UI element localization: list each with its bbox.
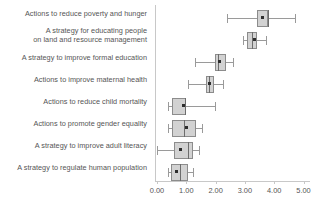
mean-marker <box>175 170 178 173</box>
upper-whisker-cap <box>215 102 216 111</box>
category-label: A strategy for educating people on land … <box>33 27 147 44</box>
lower-whisker <box>157 150 174 151</box>
mean-marker <box>182 104 185 107</box>
box-plot-item <box>155 30 310 52</box>
category-label: Actions to promote gender equality <box>34 120 147 129</box>
category-label: A strategy to regulate human population <box>17 164 147 173</box>
mean-marker <box>185 126 188 129</box>
x-axis-tick-label: 2.00 <box>208 186 222 195</box>
lower-whisker-cap <box>168 168 169 177</box>
median-line <box>188 142 189 159</box>
upper-whisker-cap <box>266 36 267 45</box>
median-line <box>185 98 186 115</box>
median-line <box>268 10 269 27</box>
x-axis-tick-label: 3.00 <box>238 186 252 195</box>
mean-marker <box>208 82 211 85</box>
lower-whisker-cap <box>168 102 169 111</box>
upper-whisker <box>186 106 215 107</box>
category-label: A strategy to improve formal education <box>22 54 147 63</box>
box-plot-item <box>155 74 310 96</box>
x-axis-tick-labels: 0.001.002.003.004.005.00 <box>155 186 313 198</box>
category-axis-labels: Actions to reduce poverty and hungerA st… <box>0 0 151 181</box>
box-plot-item <box>155 96 310 118</box>
mean-marker <box>253 38 256 41</box>
mean-marker <box>261 16 264 19</box>
upper-whisker-cap <box>295 14 296 23</box>
box-iqr <box>174 142 193 159</box>
lower-whisker <box>227 18 256 19</box>
category-label: Actions to reduce poverty and hunger <box>25 10 147 19</box>
lower-whisker-cap <box>157 146 158 155</box>
box-iqr <box>171 164 188 181</box>
category-label: A strategy to improve adult literacy <box>35 142 147 151</box>
upper-whisker-cap <box>223 80 224 89</box>
x-axis-tick-label: 1.00 <box>179 186 193 195</box>
median-line <box>180 164 181 181</box>
mean-marker <box>218 60 221 63</box>
mean-marker <box>179 148 182 151</box>
box-plot-item <box>155 118 310 140</box>
upper-whisker <box>226 62 233 63</box>
upper-whisker <box>268 18 295 19</box>
box-plot-item <box>155 8 310 30</box>
box-plot-item <box>155 162 310 184</box>
lower-whisker <box>188 84 206 85</box>
upper-whisker-cap <box>199 146 200 155</box>
x-axis-tick-label: 5.00 <box>296 186 310 195</box>
x-axis-tick-label: 0.00 <box>150 186 164 195</box>
upper-whisker <box>196 128 203 129</box>
lower-whisker-cap <box>195 58 196 67</box>
lower-whisker-cap <box>168 124 169 133</box>
lower-whisker-cap <box>227 14 228 23</box>
box-plot-item <box>155 140 310 162</box>
upper-whisker-cap <box>233 58 234 67</box>
plot-area <box>155 5 310 181</box>
x-axis-tick-label: 4.00 <box>267 186 281 195</box>
box-plot-chart: Actions to reduce poverty and hungerA st… <box>0 0 313 209</box>
upper-whisker-cap <box>202 124 203 133</box>
category-label: Actions to reduce child mortality <box>43 98 147 107</box>
upper-whisker <box>257 40 266 41</box>
lower-whisker-cap <box>188 80 189 89</box>
category-label: Actions to improve maternal health <box>34 76 147 85</box>
upper-whisker <box>214 84 223 85</box>
upper-whisker-cap <box>193 168 194 177</box>
box-plot-item <box>155 52 310 74</box>
lower-whisker <box>195 62 215 63</box>
lower-whisker-cap <box>243 36 244 45</box>
